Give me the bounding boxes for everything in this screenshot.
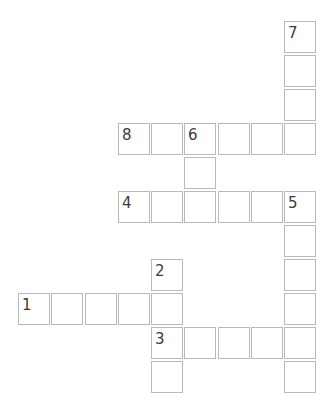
crossword-cell[interactable]: 3 <box>151 327 183 359</box>
crossword-cell[interactable] <box>218 123 250 155</box>
crossword-cell[interactable] <box>184 191 216 223</box>
clue-number: 5 <box>288 195 298 211</box>
crossword-cell[interactable] <box>284 89 316 121</box>
crossword-cell[interactable] <box>151 293 183 325</box>
crossword-cell[interactable] <box>151 123 183 155</box>
crossword-cell[interactable] <box>284 259 316 291</box>
clue-number: 7 <box>288 25 298 41</box>
crossword-cell[interactable]: 2 <box>151 259 183 291</box>
crossword-cell[interactable]: 7 <box>284 21 316 53</box>
crossword-cell[interactable] <box>284 361 316 393</box>
crossword-cell[interactable] <box>251 191 283 223</box>
crossword-cell[interactable]: 4 <box>118 191 150 223</box>
crossword-cell[interactable] <box>51 293 83 325</box>
crossword-cell[interactable] <box>251 327 283 359</box>
crossword-cell[interactable] <box>218 191 250 223</box>
crossword-cell[interactable] <box>284 123 316 155</box>
crossword-cell[interactable] <box>284 293 316 325</box>
crossword-cell[interactable] <box>218 327 250 359</box>
crossword-cell[interactable] <box>151 361 183 393</box>
crossword-cell[interactable] <box>284 55 316 87</box>
crossword-cell[interactable] <box>284 225 316 257</box>
crossword-cell[interactable]: 8 <box>118 123 150 155</box>
crossword-cell[interactable]: 1 <box>18 293 50 325</box>
crossword-cell[interactable] <box>184 327 216 359</box>
crossword-cell[interactable] <box>118 293 150 325</box>
crossword-grid: 78645213 <box>0 0 331 412</box>
crossword-cell[interactable] <box>184 157 216 189</box>
clue-number: 1 <box>22 297 32 313</box>
crossword-cell[interactable] <box>251 123 283 155</box>
clue-number: 4 <box>122 195 132 211</box>
crossword-cell[interactable]: 5 <box>284 191 316 223</box>
crossword-cell[interactable]: 6 <box>184 123 216 155</box>
clue-number: 2 <box>155 263 165 279</box>
crossword-cell[interactable] <box>85 293 117 325</box>
clue-number: 3 <box>155 331 165 347</box>
crossword-cell[interactable] <box>284 327 316 359</box>
clue-number: 8 <box>122 127 132 143</box>
crossword-cell[interactable] <box>151 191 183 223</box>
clue-number: 6 <box>188 127 198 143</box>
